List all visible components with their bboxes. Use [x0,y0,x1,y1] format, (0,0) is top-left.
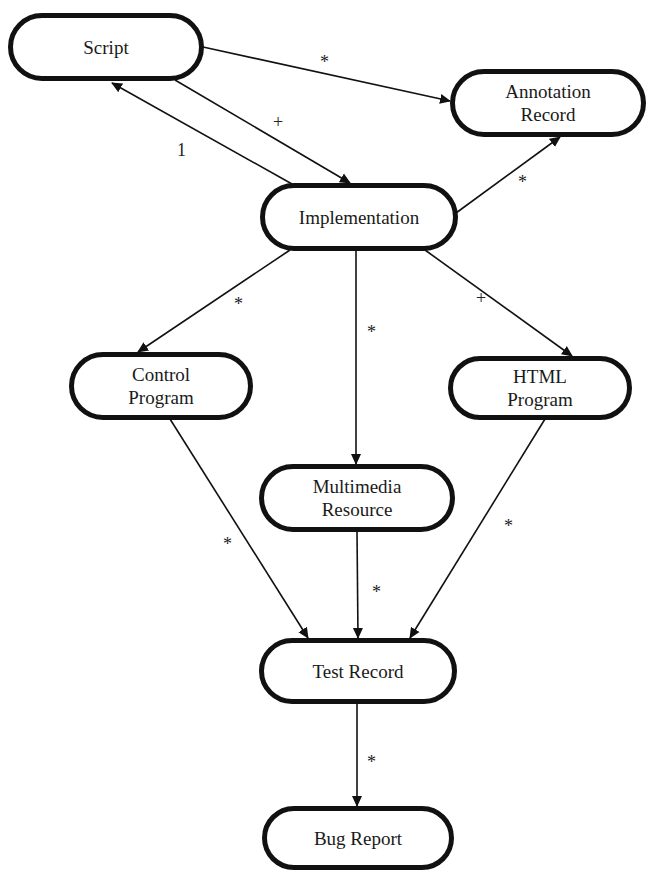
edge-label: * [504,516,513,537]
node-html-program: HTML Program [448,356,632,420]
node-label: Test Record [312,660,403,683]
node-label: Resource [322,498,393,521]
node-label: Annotation [505,80,591,103]
edge-implementation-control [138,250,290,352]
node-label: HTML [513,365,567,388]
node-label: Multimedia [313,475,402,498]
node-label: Program [128,386,193,409]
edge-label: + [476,288,486,309]
diagram-canvas: Script Annotation Record Implementation … [0,0,664,887]
edge-multimedia-testrecord [357,531,358,638]
edge-label: * [372,582,381,603]
node-test-record: Test Record [259,638,457,704]
node-label: Record [521,103,576,126]
node-multimedia-resource: Multimedia Resource [259,464,455,532]
edge-label: * [367,752,376,773]
node-implementation: Implementation [260,183,458,251]
edge-label: * [367,322,376,343]
node-label: Implementation [299,206,419,229]
edge-label: * [320,52,329,73]
node-label: Bug Report [314,827,402,850]
node-script: Script [8,13,204,81]
node-label: Program [507,388,572,411]
edge-label: 1 [177,140,186,161]
edge-label: + [273,112,283,133]
edge-label: * [223,534,232,555]
node-control-program: Control Program [69,352,253,420]
edge-label: * [234,294,243,315]
edge-label: * [518,172,527,193]
node-label: Script [83,36,128,59]
node-bug-report: Bug Report [262,806,454,870]
node-annotation-record: Annotation Record [450,69,646,137]
node-label: Control [132,363,190,386]
edge-implementation-html [425,250,572,356]
edge-implementation-annotation [456,137,560,213]
